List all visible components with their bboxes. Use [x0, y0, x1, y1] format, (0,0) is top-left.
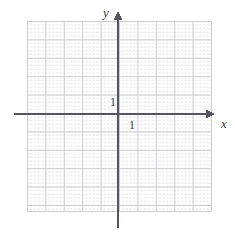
y-axis-unit-tick-label: 1	[110, 96, 116, 108]
coordinate-plane-svg	[0, 0, 235, 234]
y-axis-label: y	[103, 6, 109, 19]
x-axis-label: x	[221, 117, 227, 130]
coordinate-plane-figure: y x 1 1	[0, 0, 235, 234]
x-axis-unit-tick-label: 1	[129, 119, 135, 131]
grid-major	[27, 21, 211, 211]
